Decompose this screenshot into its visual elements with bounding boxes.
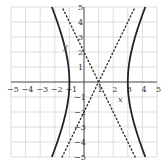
x-tick-label: 5 (156, 85, 161, 94)
hyperbola-chart: −5−4−3−2−11234554321−1−2−3−4−5 y x (0, 0, 161, 166)
x-tick-label: −4 (22, 85, 34, 94)
y-tick-label: 2 (78, 48, 83, 57)
x-tick-label: 4 (141, 85, 146, 94)
x-tick-label: −2 (51, 85, 63, 94)
y-tick-label: −1 (74, 93, 86, 102)
y-axis-label: y (62, 42, 68, 51)
y-tick-label: 5 (78, 3, 83, 12)
y-tick-label: −3 (74, 123, 86, 132)
y-tick-label: 4 (78, 18, 83, 27)
y-tick-label: 1 (78, 63, 83, 72)
y-tick-label: −5 (74, 153, 86, 162)
axes (11, 7, 157, 157)
y-tick-label: −4 (74, 138, 86, 147)
x-tick-label: −3 (36, 85, 48, 94)
x-tick-label: 1 (98, 85, 103, 94)
x-tick-label: 2 (112, 85, 117, 94)
x-axis-label: x (118, 95, 123, 104)
x-tick-label: −5 (7, 85, 19, 94)
